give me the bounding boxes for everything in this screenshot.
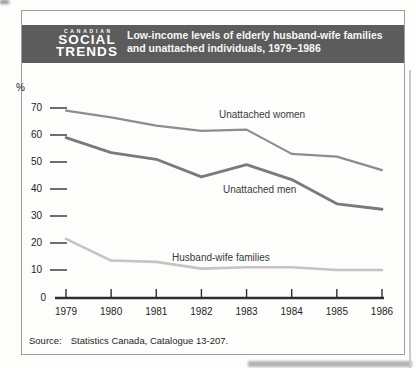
- x-tick-label: 1983: [229, 306, 265, 317]
- series-label: Husband-wife families: [172, 252, 270, 263]
- source-note: Source:Statistics Canada, Catalogue 13-2…: [29, 335, 228, 346]
- series-label: Unattached men: [223, 184, 296, 195]
- y-zero-label: 0: [20, 292, 46, 303]
- page-edge-shadow-bottom: [248, 361, 412, 367]
- y-tick-label: 40: [16, 183, 42, 194]
- x-tick-label: 1985: [319, 306, 355, 317]
- x-tick-label: 1984: [274, 306, 310, 317]
- y-tick-label: 50: [16, 156, 42, 167]
- x-tick-label: 1986: [364, 306, 400, 317]
- y-tick-label: 60: [16, 129, 42, 140]
- y-tick-label: 20: [16, 237, 42, 248]
- magazine-chart-page: CANADIAN SOCIAL TRENDS Low-income levels…: [0, 0, 416, 368]
- source-text: Statistics Canada, Catalogue 13-207.: [71, 335, 228, 346]
- x-tick-label: 1980: [93, 306, 129, 317]
- x-tick-label: 1979: [48, 306, 84, 317]
- source-label: Source:: [29, 335, 62, 346]
- x-tick-label: 1981: [138, 306, 174, 317]
- y-tick-label: 30: [16, 210, 42, 221]
- series-label: Unattached women: [219, 109, 305, 120]
- page-edge-shadow-right: [409, 70, 411, 368]
- series-line-unattached-men: [66, 138, 382, 210]
- y-tick-label: 70: [16, 102, 42, 113]
- y-tick-label: 10: [16, 264, 42, 275]
- y-axis-unit-label: %: [16, 82, 25, 93]
- x-tick-label: 1982: [183, 306, 219, 317]
